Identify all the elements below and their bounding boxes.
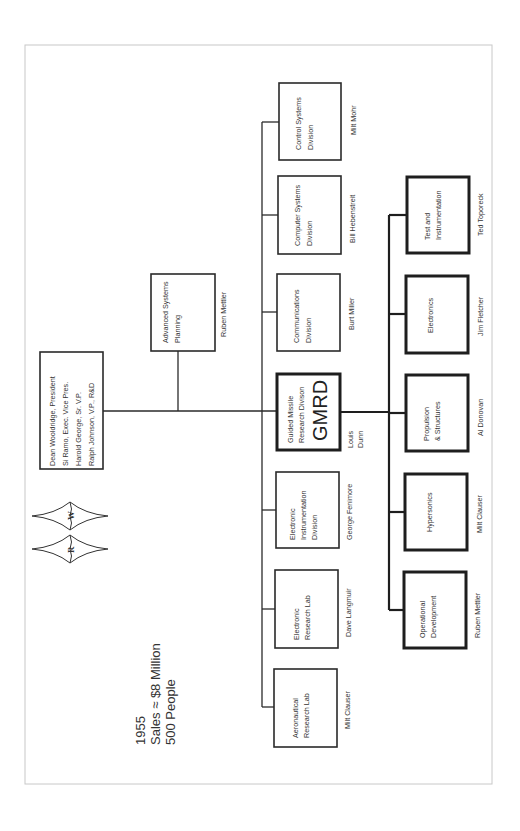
division-head: Milt Mohr (349, 105, 358, 135)
division-title: Control Systems (294, 97, 303, 150)
staff-head: Ruben Mettler (219, 291, 228, 337)
division-title: Instrumentation (299, 490, 308, 540)
executive-box[interactable]: Dean Wooldridge, President Si Ramo, Exec… (40, 352, 103, 469)
dept-title: Operational (418, 600, 427, 638)
division-title: Research Lab (303, 595, 312, 640)
stats-sales: Sales ≈ $8 Million (148, 643, 163, 745)
dept-head: Al Donovan (476, 399, 485, 436)
division-title: Research Divison (297, 387, 306, 443)
division-title: Aeronautical (291, 698, 300, 738)
dept-head: Ted Toporeck (476, 193, 485, 236)
dept-box-test-instrumentation[interactable]: Test and Instrumentation (407, 177, 469, 253)
division-title: Guided Missile (286, 396, 295, 443)
division-title: Division (306, 125, 315, 150)
division-title: Division (304, 318, 313, 343)
dept-head: Jim Fletcher (476, 296, 485, 336)
dept-title: Propulsion (422, 407, 431, 441)
executive-line-1: Dean Wooldridge, President (48, 376, 57, 466)
division-head: George Fenimore (345, 484, 354, 540)
division-head: Milt Clauser (343, 690, 352, 729)
dept-head: Milt Clauser (475, 494, 484, 533)
division-head-line-1: Louis (346, 430, 355, 448)
dept-title: Electronics (426, 297, 435, 333)
dept-title: Test and (423, 213, 432, 240)
division-title: Computer Systems (293, 184, 302, 246)
division-box-gmrd[interactable]: Guided Missile Research Divison GMRD (277, 374, 340, 450)
division-title: Division (305, 221, 314, 246)
staff-title-1: Advanced Systems (161, 281, 170, 343)
executive-line-2: Si Ramo, Exec. Vice Pres. (61, 382, 70, 466)
division-box-computer-systems[interactable]: Computer Systems Division (278, 176, 341, 254)
dept-box-hypersonics[interactable]: Hypersonics (405, 474, 467, 550)
staff-box-advanced-systems[interactable]: Advanced Systems Planning (151, 274, 215, 351)
division-title: Electronic (288, 508, 297, 540)
division-head: Dave Langmuir (344, 588, 353, 637)
executive-line-3: Harold George, Sr. V.P. (74, 392, 83, 466)
gmrd-abbr: GMRD (309, 380, 331, 441)
division-box-electronic-instrumentation[interactable]: Electronic Instrumentation Division (276, 472, 339, 548)
division-box-aeronautical-research-lab[interactable]: Aeronautical Research Lab (274, 669, 337, 747)
division-title: Communications (292, 289, 301, 343)
division-box-electronic-research-lab[interactable]: Electronic Research Lab (275, 570, 338, 648)
dept-box-operational-development[interactable]: Operational Development (404, 572, 466, 648)
division-title: Research Lab (302, 693, 311, 738)
logo-letter-w: W (66, 511, 76, 520)
logo-letter-r: R (66, 546, 76, 553)
company-stats: 1955 Sales ≈ $8 Million 500 People (133, 643, 178, 745)
dept-box-propulsion-structures[interactable]: Propulsion & Structures (406, 375, 468, 451)
org-chart: Dean Wooldridge, President Si Ramo, Exec… (0, 0, 520, 831)
dept-title: & Structures (433, 401, 442, 441)
division-title: Electronic (292, 608, 301, 640)
division-box-control-systems[interactable]: Control Systems Division (279, 83, 341, 160)
division-head-line-2: Dunn (356, 431, 365, 448)
division-box-communications[interactable]: Communications Division (277, 274, 340, 351)
division-head: Burt Miller (347, 297, 356, 330)
division-head: Bill Hebenstreit (348, 195, 357, 243)
dept-title: Hypersonics (425, 492, 434, 532)
staff-title-2: Planning (173, 315, 182, 343)
dept-title: Development (429, 596, 438, 638)
stats-people: 500 People (163, 679, 178, 745)
stats-year: 1955 (133, 716, 148, 745)
trw-logo: W R (32, 502, 108, 563)
dept-title: Instrumentation (434, 190, 443, 240)
executive-line-4: Ralph Johnson, V.P., R&D (87, 383, 96, 466)
dept-head: Ruben Mettler (473, 592, 482, 638)
dept-box-electronics[interactable]: Electronics (406, 276, 468, 353)
division-title: Division (310, 515, 319, 540)
